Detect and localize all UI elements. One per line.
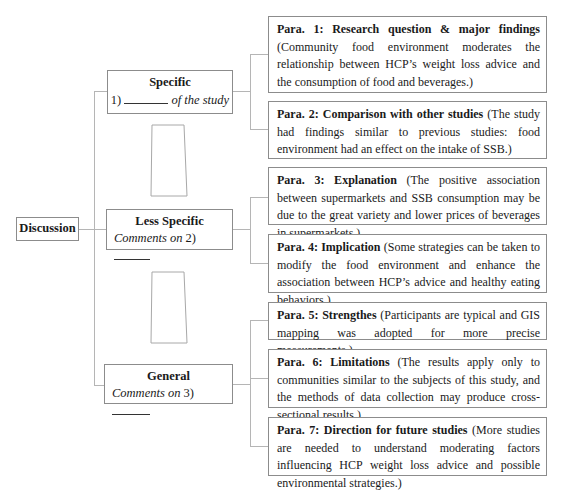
less-specific-title: Less Specific: [107, 213, 232, 230]
specific-subtitle: 1) of the study: [108, 91, 232, 109]
bracket-less-specific: [250, 197, 251, 264]
connector-para4: [250, 263, 268, 264]
bracket-specific: [250, 54, 251, 130]
discussion-box: Discussion: [16, 217, 79, 241]
comments-on-label-3: Comments on: [112, 386, 180, 400]
connector-general: [233, 384, 250, 385]
specific-box: Specific 1) of the study: [107, 70, 233, 114]
connector-para7: [250, 446, 268, 447]
para-7-heading: Para. 7: Direction for future studies: [277, 423, 468, 437]
connector-specific: [233, 91, 250, 92]
blank-number-3: 3): [184, 386, 194, 400]
bracket-top: [94, 91, 107, 92]
general-subtitle: Comments on 3): [105, 385, 232, 420]
blank-number-2: 2): [186, 231, 196, 245]
general-box: General Comments on 3): [104, 364, 233, 404]
connector-para5: [250, 320, 268, 321]
funnel-shape-1: [150, 124, 190, 198]
bracket-vertical: [94, 91, 95, 386]
fill-blank-1: [124, 91, 168, 104]
connector-para1: [250, 54, 268, 55]
blank-number-1: 1): [111, 93, 121, 107]
para-3-heading: Para. 3: Explanation: [277, 173, 397, 187]
para-1-heading: Para. 1: Research question & major findi…: [277, 22, 540, 36]
specific-suffix: of the study: [172, 93, 230, 107]
para-3-box: Para. 3: Explanation (The positive assoc…: [268, 167, 547, 225]
fill-blank-2: [114, 247, 150, 260]
connector-less-specific: [232, 229, 250, 230]
fill-blank-3: [112, 402, 150, 415]
comments-on-label-2: Comments on: [114, 231, 182, 245]
connector-para2: [250, 129, 268, 130]
bracket-general: [250, 320, 251, 447]
general-title: General: [105, 368, 232, 385]
para-2-heading: Para. 2: Comparison with other studies: [277, 107, 483, 121]
para-5-box: Para. 5: Strengthes (Participants are ty…: [268, 302, 547, 340]
para-6-box: Para. 6: Limitations (The results apply …: [268, 349, 547, 408]
connector-root: [78, 229, 106, 230]
specific-title: Specific: [108, 74, 232, 91]
para-2-box: Para. 2: Comparison with other studies (…: [268, 101, 547, 159]
less-specific-subtitle: Comments on 2): [107, 230, 232, 265]
connector-para6: [250, 378, 268, 379]
para-4-box: Para. 4: Implication (Some strategies ca…: [268, 234, 547, 293]
connector-para3: [250, 197, 268, 198]
discussion-label: Discussion: [19, 221, 75, 235]
para-7-box: Para. 7: Direction for future studies (M…: [268, 417, 547, 476]
less-specific-box: Less Specific Comments on 2): [106, 209, 233, 250]
para-1-body: (Community food environment moderates th…: [277, 40, 540, 89]
para-6-heading: Para. 6: Limitations: [277, 355, 390, 369]
bracket-bottom: [94, 385, 104, 386]
funnel-shape-2: [150, 271, 190, 345]
para-4-heading: Para. 4: Implication: [277, 240, 381, 254]
para-5-heading: Para. 5: Strengthes: [277, 308, 377, 322]
para-1-box: Para. 1: Research question & major findi…: [268, 16, 547, 93]
